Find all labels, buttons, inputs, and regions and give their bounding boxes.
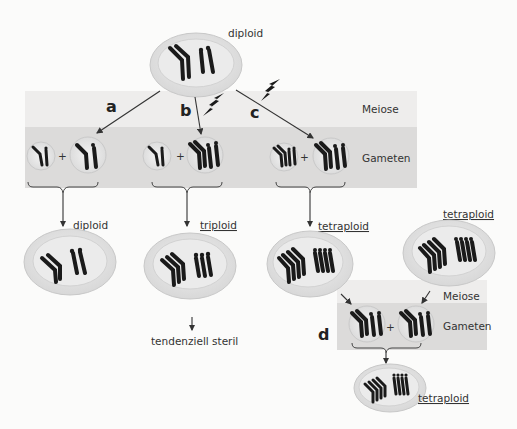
plus-sign: + (386, 321, 395, 333)
gamete-d-1 (349, 306, 385, 342)
result-c-label: tetraploid (318, 220, 369, 232)
right-cell-label: tetraploid (443, 208, 494, 220)
gamete-b-2 (187, 137, 223, 173)
result-b-label: triploid (200, 219, 237, 231)
gamete-a-2 (70, 137, 106, 173)
result-d-tetraploid-cell (354, 364, 426, 412)
top-diploid-cell (150, 33, 242, 97)
gameten-label: Gameten (362, 152, 411, 164)
path-a-label: a (106, 97, 117, 116)
gamete-c-2 (313, 138, 349, 174)
plus-sign: + (300, 151, 309, 163)
gamete-b-1 (143, 142, 171, 170)
gamete-d-2 (398, 306, 434, 342)
top-cell-label: diploid (228, 27, 263, 39)
right-tetraploid-cell (403, 220, 495, 286)
sterile-note: tendenziell steril (151, 335, 238, 347)
path-b-label: b (180, 101, 191, 120)
gameten-label-lower: Gameten (443, 320, 492, 332)
path-c-label: c (250, 103, 259, 122)
plus-sign: + (58, 150, 67, 162)
meiose-label: Meiose (362, 103, 399, 115)
result-a-diploid-cell (24, 229, 116, 295)
meiose-band (25, 91, 417, 128)
result-d-label: tetraploid (418, 392, 469, 404)
meiose-label-lower: Meiose (443, 290, 480, 302)
gamete-c-1 (270, 143, 298, 171)
gamete-a-1 (27, 142, 55, 170)
result-c-tetraploid-cell (267, 231, 353, 297)
path-d-label: d (318, 325, 329, 344)
result-b-triploid-cell (144, 233, 236, 299)
plus-sign: + (176, 150, 185, 162)
